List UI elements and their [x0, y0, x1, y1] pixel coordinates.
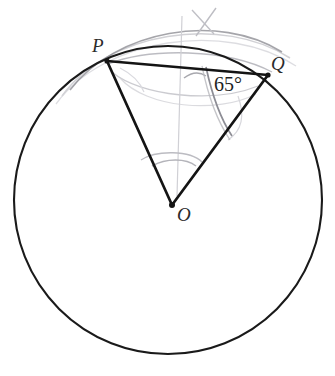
point-p-dot	[104, 58, 109, 63]
sketch-tick-lower	[152, 160, 196, 166]
sketch-tick-upper	[184, 73, 206, 78]
point-o-dot	[169, 202, 175, 208]
sketch-cross-mark-right	[196, 8, 216, 36]
main-circle	[14, 46, 322, 354]
point-label-o: O	[177, 205, 191, 224]
chord-pq	[107, 61, 268, 75]
angle-measure-label: 65°	[214, 74, 242, 94]
sketch-vertical-axis	[177, 16, 182, 196]
point-label-p: P	[92, 36, 104, 55]
radius-op	[107, 61, 172, 205]
point-label-q: Q	[271, 54, 285, 73]
geometry-diagram: P Q O 65°	[0, 0, 335, 376]
point-q-dot	[265, 72, 270, 77]
